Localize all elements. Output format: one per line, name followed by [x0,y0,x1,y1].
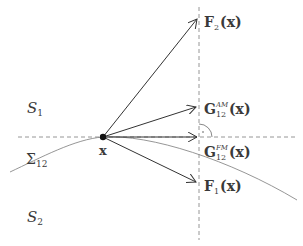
vector-g12am-sub: 12 [216,110,226,119]
sigma12-label: Σ12 [26,151,47,169]
sigma12-curve [10,137,297,200]
vector-f1-label: F1(x) [204,178,242,196]
vector-f1-arrow [103,137,196,182]
region-s1-label: S1 [27,99,43,118]
vector-f2-arrow [103,19,197,137]
point-x-dot [100,134,106,140]
region-s2-label: S2 [27,208,43,227]
vector-g12am-arrow [103,107,196,137]
vector-g12fm-sub: 12 [216,153,226,162]
diagram-canvas: x S1 S2 Σ12 F2(x) GAM 12 (x) GFM 12 (x) … [0,0,303,246]
vector-f2-label: F2(x) [204,14,242,32]
right-angle-marker [199,124,212,137]
vector-g12fm-arg: (x) [229,144,251,160]
right-angle-dot [202,131,204,133]
point-x-label: x [99,143,107,158]
vector-g12am-arg: (x) [229,101,251,117]
